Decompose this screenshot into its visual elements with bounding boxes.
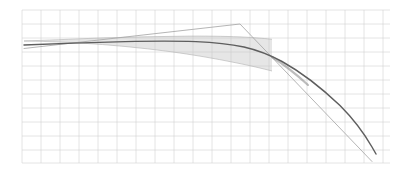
chart-container (0, 0, 406, 177)
primary-trend-line (24, 41, 376, 154)
line-chart-plot (0, 0, 406, 177)
grid-horizontal-lines (22, 10, 390, 163)
grid-vertical-lines (22, 10, 383, 163)
curve-overlap-shading (272, 57, 308, 85)
